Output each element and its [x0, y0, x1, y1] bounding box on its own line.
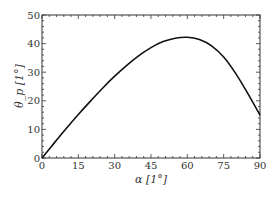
line-chart: 0153045607590 01020304050 α [1°] θ_p [1°… — [0, 0, 276, 197]
x-axis-label: α [1°] — [135, 173, 168, 186]
y-tick-label: 50 — [27, 10, 40, 21]
x-tick-label: 60 — [181, 160, 194, 171]
x-tick-labels: 0153045607590 — [39, 160, 267, 171]
x-tick-label: 75 — [217, 160, 230, 171]
y-tick-label: 40 — [27, 38, 40, 49]
y-tick-label: 30 — [27, 67, 40, 78]
y-axis-label: θ_p [1°] — [13, 63, 26, 107]
axis-ticks — [42, 15, 260, 158]
y-tick-label: 20 — [27, 95, 40, 106]
x-tick-label: 45 — [145, 160, 158, 171]
x-tick-label: 15 — [72, 160, 85, 171]
plot-frame — [42, 15, 260, 158]
data-line — [42, 37, 260, 158]
x-tick-label: 90 — [254, 160, 267, 171]
x-tick-label: 30 — [108, 160, 121, 171]
y-tick-label: 0 — [34, 153, 40, 164]
y-tick-labels: 01020304050 — [27, 10, 40, 164]
y-tick-label: 10 — [27, 124, 40, 135]
